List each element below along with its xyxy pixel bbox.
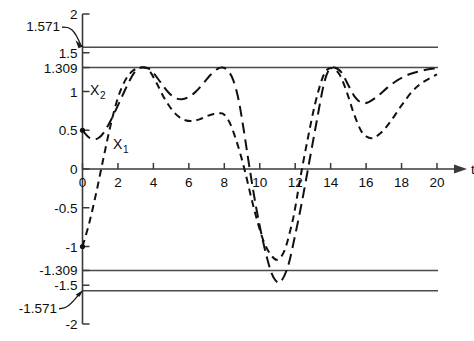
y-tick-label: 1.309 — [44, 61, 78, 76]
series-label-x2: X — [90, 82, 100, 98]
x-tick-label: 4 — [150, 175, 158, 190]
annotation-label-neg1571: -1.571 — [19, 301, 57, 316]
y-tick-label: -0.5 — [54, 201, 77, 216]
y-tick-label: 1 — [70, 85, 78, 100]
series-start-marker-x2 — [80, 128, 85, 133]
x-tick-label: 18 — [394, 175, 409, 190]
x-axis-ticks — [83, 163, 438, 169]
y-tick-label: -2 — [65, 317, 77, 332]
x-tick-labels: 0 2 4 6 8 10 12 14 16 18 20 — [79, 175, 445, 190]
x-axis-arrowhead — [454, 164, 467, 173]
annotation-neg1571: -1.571 — [19, 290, 84, 316]
y-tick-labels: 2 1.5 1.309 1 0.5 0 -0.5 -1 -1.309 -1.5 … — [39, 7, 77, 332]
series-label-x1-subscript: 1 — [123, 144, 129, 155]
x-axis — [83, 163, 468, 174]
x-tick-label: 10 — [252, 175, 267, 190]
series-label-x2-subscript: 2 — [100, 90, 106, 101]
y-tick-label: -1.309 — [39, 263, 77, 278]
y-tick-label: 0.5 — [59, 123, 78, 138]
annotation-1571: 1.571 — [26, 19, 83, 48]
series-label-x1: X — [113, 136, 123, 152]
x-tick-label: 0 — [79, 175, 87, 190]
series-label-x2-group: X 2 — [90, 82, 106, 101]
chart-svg: 2 1.5 1.309 1 0.5 0 -0.5 -1 -1.309 -1.5 … — [0, 0, 474, 341]
y-tick-label: -1.5 — [54, 278, 77, 293]
x-tick-label: 20 — [429, 175, 444, 190]
chart-figure: 2 1.5 1.309 1 0.5 0 -0.5 -1 -1.309 -1.5 … — [0, 0, 474, 341]
x-tick-label: 14 — [323, 175, 339, 190]
annotation-leader-1571 — [62, 27, 81, 44]
y-tick-label: 2 — [70, 7, 78, 22]
x-tick-label: 2 — [114, 175, 122, 190]
y-tick-label: 1.5 — [59, 46, 78, 61]
annotation-label-1571: 1.571 — [26, 19, 60, 34]
x-tick-label: 6 — [185, 175, 193, 190]
x-tick-label: 8 — [221, 175, 229, 190]
x-tick-label: 16 — [359, 175, 374, 190]
series-start-marker-x1 — [80, 244, 85, 249]
series-label-x1-group: X 1 — [113, 136, 129, 155]
y-tick-label: -1 — [65, 240, 77, 255]
y-tick-label: 0 — [70, 162, 78, 177]
